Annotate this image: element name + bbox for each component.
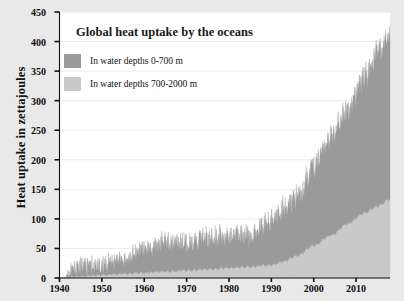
- x-tick-label: 1960: [122, 283, 166, 294]
- y-tick-label: 0: [12, 273, 46, 284]
- x-axis-tick-labels: 19401950196019701980199020002010: [0, 283, 404, 299]
- y-tick-label: 350: [12, 66, 46, 77]
- x-tick-label: 1970: [165, 283, 209, 294]
- legend-swatch-shallow: [64, 54, 81, 68]
- x-tick-label: 1950: [80, 283, 124, 294]
- y-tick-label: 50: [12, 243, 46, 254]
- legend-label-shallow: In water depths 0-700 m: [90, 56, 183, 66]
- x-tick-label: 1980: [207, 283, 251, 294]
- x-tick-label: 1990: [249, 283, 293, 294]
- y-tick-label: 400: [12, 36, 46, 47]
- legend-item-deep: In water depths 700-2000 m: [64, 77, 197, 91]
- y-tick-label: 450: [12, 7, 46, 18]
- x-tick-label: 1940: [38, 283, 82, 294]
- legend-label-deep: In water depths 700-2000 m: [90, 79, 197, 89]
- chart-plot-area: [0, 0, 404, 301]
- y-tick-label: 150: [12, 184, 46, 195]
- chart-figure: Heat uptake in zettajoules 0501001502002…: [0, 0, 404, 301]
- legend-item-shallow: In water depths 0-700 m: [64, 54, 183, 68]
- chart-title: Global heat uptake by the oceans: [76, 25, 253, 40]
- x-tick-label: 2000: [292, 283, 336, 294]
- y-tick-label: 200: [12, 154, 46, 165]
- x-tick-label: 2010: [334, 283, 378, 294]
- y-tick-label: 300: [12, 95, 46, 106]
- legend-swatch-deep: [64, 77, 81, 91]
- y-tick-label: 250: [12, 125, 46, 136]
- y-tick-label: 100: [12, 213, 46, 224]
- y-axis-tick-labels: 050100150200250300350400450: [12, 0, 46, 301]
